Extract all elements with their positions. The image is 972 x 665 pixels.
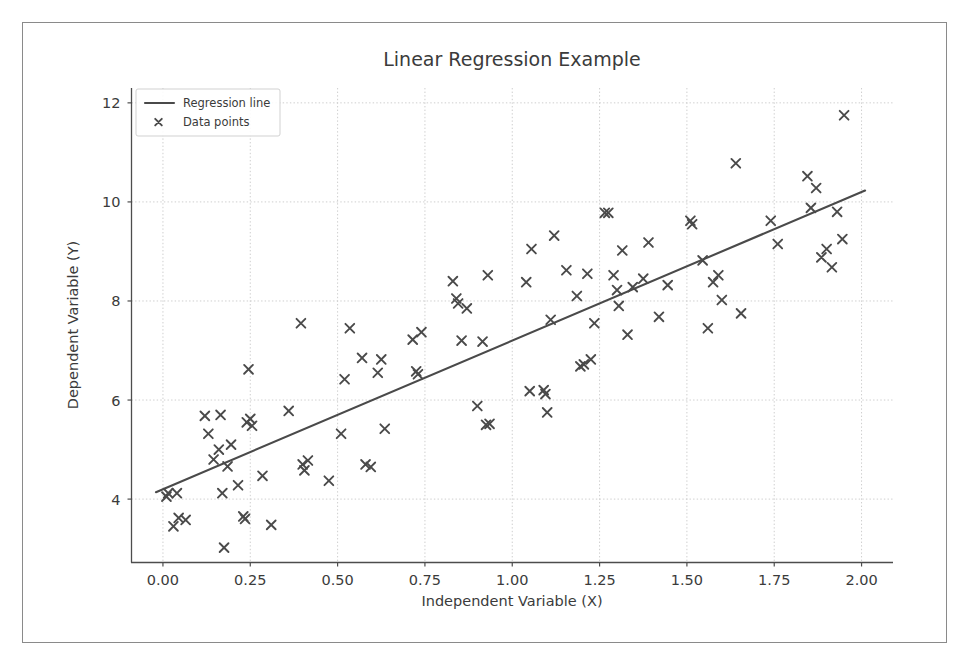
scatter-point-marker [663, 281, 672, 290]
x-tick-label: 0.25 [234, 572, 266, 588]
y-tick-label: 10 [102, 194, 120, 210]
scatter-point-marker [173, 489, 182, 498]
scatter-point-marker [618, 246, 627, 255]
scatter-point-marker [812, 184, 821, 193]
x-tick-label: 0.00 [147, 572, 179, 588]
scatter-point-marker [417, 328, 426, 337]
scatter-point-marker [709, 278, 718, 287]
scatter-point-marker [181, 516, 190, 525]
scatter-point-marker [731, 159, 740, 168]
scatter-point-marker [803, 172, 812, 181]
legend-label-data-points: Data points [183, 115, 249, 129]
x-tick-label: 0.50 [321, 572, 353, 588]
scatter-point-marker [220, 543, 229, 552]
scatter-point-marker [473, 402, 482, 411]
scatter-point-marker [717, 296, 726, 305]
scatter-point-marker [623, 330, 632, 339]
scatter-point-marker [572, 292, 581, 301]
scatter-point-marker [414, 370, 423, 379]
y-tick-label: 6 [111, 393, 120, 409]
y-tick-label: 4 [111, 492, 120, 508]
scatter-point-marker [234, 481, 243, 490]
scatter-point-marker [304, 456, 313, 465]
x-tick-label: 1.00 [496, 572, 528, 588]
scatter-point-marker [200, 411, 209, 420]
scatter-point-marker [408, 335, 417, 344]
scatter-point-marker [267, 520, 276, 529]
scatter-points [162, 111, 848, 552]
scatter-point-marker [258, 471, 267, 480]
scatter-point-marker [609, 271, 618, 280]
x-axis-ticks: 0.000.250.500.751.001.251.501.752.00 [147, 563, 878, 588]
scatter-point-marker [358, 354, 367, 363]
scatter-point-marker [546, 315, 555, 324]
scatter-point-marker [284, 407, 293, 416]
scatter-point-marker [373, 368, 382, 377]
scatter-point-marker [838, 235, 847, 244]
x-tick-label: 2.00 [845, 572, 877, 588]
scatter-point-marker [833, 207, 842, 216]
scatter-point-marker [204, 429, 213, 438]
scatter-point-marker [462, 304, 471, 313]
scatter-point-marker [227, 440, 236, 449]
x-axis-label: Independent Variable (X) [421, 593, 602, 609]
linear-regression-plot: 0.000.250.500.751.001.251.501.752.00 468… [0, 0, 972, 665]
scatter-point-marker [644, 238, 653, 247]
scatter-point-marker [216, 411, 225, 420]
regression-line [156, 191, 865, 493]
scatter-point-marker [448, 277, 457, 286]
scatter-point-marker [614, 302, 623, 311]
scatter-point-marker [550, 231, 559, 240]
scatter-point-marker [214, 445, 223, 454]
scatter-point-marker [766, 216, 775, 225]
scatter-point-marker [543, 408, 552, 417]
scatter-point-marker [527, 245, 536, 254]
gridlines [132, 88, 894, 563]
scatter-point-marker [827, 263, 836, 272]
x-tick-label: 1.50 [671, 572, 703, 588]
scatter-point-marker [639, 274, 648, 283]
y-tick-label: 12 [102, 95, 120, 111]
scatter-point-marker [478, 337, 487, 346]
scatter-point-marker [297, 319, 306, 328]
scatter-point-marker [840, 111, 849, 120]
scatter-point-marker [340, 375, 349, 384]
scatter-point-marker [817, 253, 826, 262]
y-tick-label: 8 [111, 293, 120, 309]
scatter-point-marker [655, 312, 664, 321]
scatter-point-marker [244, 365, 253, 374]
legend[interactable]: Regression line Data points [136, 89, 280, 136]
scatter-point-marker [807, 203, 816, 212]
chart-root: 0.000.250.500.751.001.251.501.752.00 468… [0, 0, 972, 665]
x-tick-label: 1.75 [758, 572, 790, 588]
scatter-point-marker [822, 245, 831, 254]
scatter-point-marker [590, 319, 599, 328]
scatter-point-marker [688, 220, 697, 229]
scatter-point-marker [209, 455, 218, 464]
scatter-point-marker [483, 271, 492, 280]
y-axis-ticks: 4681012 [102, 95, 131, 507]
scatter-point-marker [522, 278, 531, 287]
x-tick-label: 0.75 [409, 572, 441, 588]
chart-title: Linear Regression Example [383, 48, 640, 70]
scatter-point-marker [380, 424, 389, 433]
scatter-point-marker [324, 476, 333, 485]
legend-label-regression-line: Regression line [183, 96, 270, 110]
scatter-point-marker [169, 522, 178, 531]
scatter-point-marker [737, 309, 746, 318]
scatter-point-marker [164, 489, 173, 498]
scatter-point-marker [703, 324, 712, 333]
scatter-point-marker [714, 271, 723, 280]
scatter-point-marker [223, 462, 232, 471]
scatter-point-marker [218, 489, 227, 498]
x-tick-label: 1.25 [583, 572, 615, 588]
scatter-point-marker [457, 336, 466, 345]
scatter-point-marker [583, 269, 592, 278]
scatter-point-marker [345, 324, 354, 333]
y-axis-label: Dependent Variable (Y) [65, 241, 81, 410]
scatter-point-marker [613, 286, 622, 295]
scatter-point-marker [562, 266, 571, 275]
scatter-point-marker [525, 387, 534, 396]
regression-line-path [156, 191, 865, 493]
scatter-point-marker [377, 355, 386, 364]
